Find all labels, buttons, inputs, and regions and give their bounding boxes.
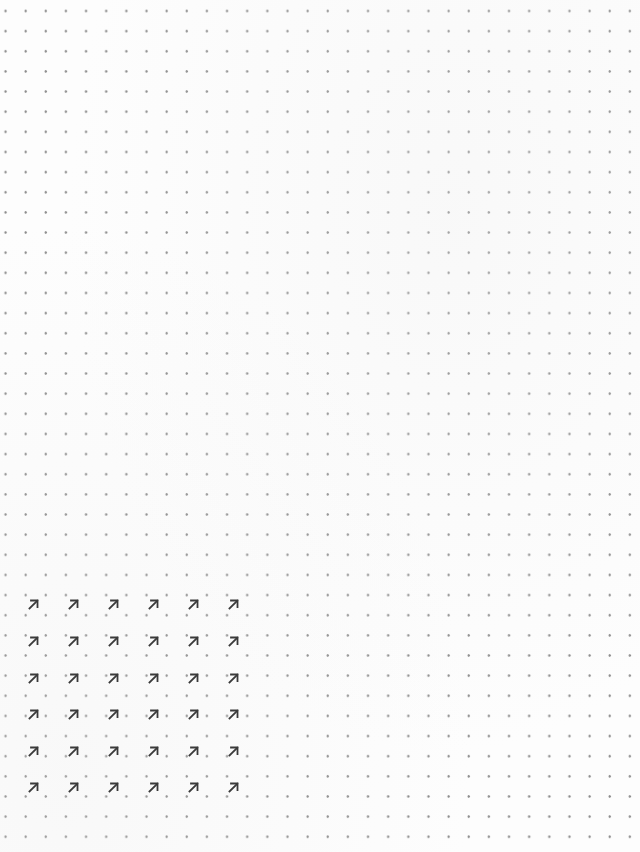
arrow-up-right-icon xyxy=(148,599,159,610)
arrow-up-right-icon xyxy=(108,709,119,720)
arrow-up-right-icon xyxy=(108,599,119,610)
arrow-up-right-icon xyxy=(228,746,239,757)
arrow-up-right-icon xyxy=(188,636,199,647)
arrow-up-right-icon xyxy=(108,636,119,647)
arrow-up-right-icon xyxy=(148,709,159,720)
arrow-up-right-icon xyxy=(188,599,199,610)
arrow-up-right-icon xyxy=(28,636,39,647)
arrow-up-right-icon xyxy=(148,673,159,684)
arrow-up-right-icon xyxy=(228,673,239,684)
arrow-grid xyxy=(0,0,640,852)
dot-grid-page xyxy=(0,0,640,852)
arrow-up-right-icon xyxy=(148,746,159,757)
arrow-up-right-icon xyxy=(108,746,119,757)
arrow-up-right-icon xyxy=(28,782,39,793)
arrow-up-right-icon xyxy=(108,673,119,684)
arrow-up-right-icon xyxy=(188,673,199,684)
arrow-up-right-icon xyxy=(68,709,79,720)
arrow-up-right-icon xyxy=(28,709,39,720)
arrow-up-right-icon xyxy=(68,636,79,647)
arrow-up-right-icon xyxy=(28,673,39,684)
arrow-up-right-icon xyxy=(68,782,79,793)
arrow-up-right-icon xyxy=(228,782,239,793)
arrow-up-right-icon xyxy=(228,636,239,647)
arrow-up-right-icon xyxy=(188,709,199,720)
arrow-up-right-icon xyxy=(28,599,39,610)
arrow-up-right-icon xyxy=(108,782,119,793)
arrow-up-right-icon xyxy=(148,636,159,647)
arrow-up-right-icon xyxy=(68,599,79,610)
arrow-up-right-icon xyxy=(148,782,159,793)
arrow-up-right-icon xyxy=(188,746,199,757)
arrow-up-right-icon xyxy=(228,599,239,610)
arrow-up-right-icon xyxy=(68,673,79,684)
arrow-up-right-icon xyxy=(28,746,39,757)
arrow-up-right-icon xyxy=(228,709,239,720)
arrow-up-right-icon xyxy=(68,746,79,757)
arrow-up-right-icon xyxy=(188,782,199,793)
